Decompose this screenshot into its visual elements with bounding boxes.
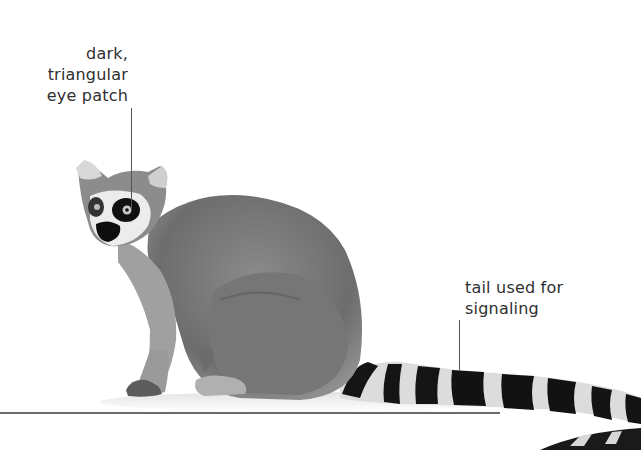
ground-line	[0, 412, 500, 414]
tail-curl-lower	[540, 428, 641, 450]
tail-leader-line	[459, 320, 460, 370]
tail	[340, 362, 641, 424]
tail-label-line-1: tail used for	[465, 277, 563, 298]
tail-label: tail used for signaling	[465, 277, 563, 319]
eye-patch-label-line-2: triangular	[0, 64, 128, 85]
eye-patch-label: dark, triangular eye patch	[0, 43, 128, 106]
lemur-illustration: dark, triangular eye patch tail used for…	[0, 0, 641, 450]
eye-patch-label-line-3: eye patch	[0, 85, 128, 106]
eye-patch-label-line-1: dark,	[0, 43, 128, 64]
tail-label-line-2: signaling	[465, 298, 563, 319]
eye-patch-leader-line	[131, 108, 132, 208]
